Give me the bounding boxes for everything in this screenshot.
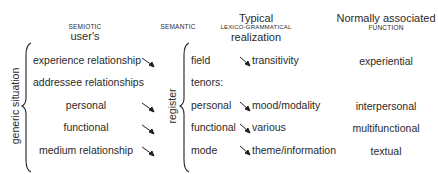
function-experiential: experiential (359, 55, 413, 67)
header-lexico: LEXICO-GRAMMATICAL (220, 24, 291, 30)
register-item-functional: functional (191, 121, 236, 133)
left-item-addressee: addressee relationships (33, 76, 144, 88)
left-item-experience: experience relationship (33, 54, 141, 66)
left-item-medium: medium relationship (39, 144, 133, 156)
register-brace (180, 43, 189, 172)
header-typical: Typical (239, 12, 273, 24)
register-item-mode: mode (191, 144, 217, 156)
function-multifunctional: multifunctional (352, 122, 419, 134)
register-label: register (166, 86, 178, 126)
arrow-icon (142, 58, 154, 156)
header-function: FUNCTION (368, 24, 403, 31)
realization-mood-modality: mood/modality (252, 99, 320, 111)
realization-theme-information: theme/information (252, 144, 336, 156)
register-item-personal: personal (191, 99, 231, 111)
function-interpersonal: interpersonal (356, 100, 417, 112)
register-item-field: field (191, 54, 210, 66)
generic-situation-label: generic situation (9, 61, 21, 151)
header-realization: realization (231, 31, 281, 43)
header-semiotic: SEMIOTIC (68, 23, 101, 30)
arrow-icon (240, 57, 250, 155)
header-semantic: SEMANTIC (160, 23, 195, 30)
left-brace (22, 43, 31, 172)
left-item-personal: personal (66, 99, 106, 111)
realization-various: various (252, 121, 286, 133)
header-users: user's (71, 30, 100, 42)
realization-transitivity: transitivity (252, 54, 299, 66)
register-item-tenors: tenors: (191, 76, 223, 88)
header-normally-associated: Normally associated (336, 12, 435, 24)
left-item-functional: functional (64, 121, 109, 133)
function-textual: textual (371, 145, 402, 157)
